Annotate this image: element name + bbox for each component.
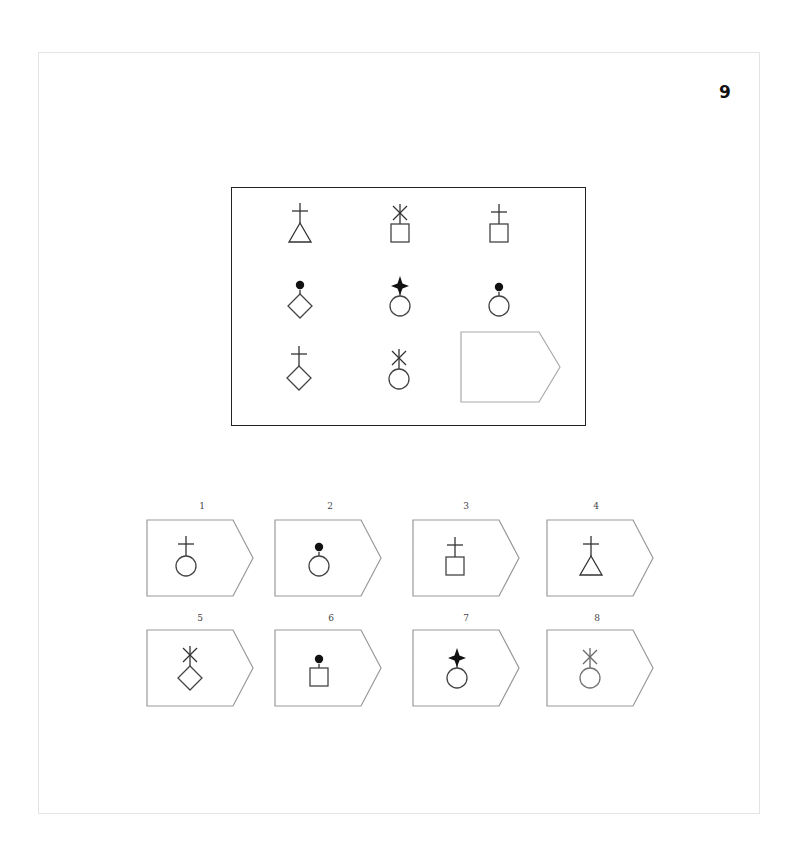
cell-r3c1: [287, 346, 311, 390]
answer-option-4[interactable]: [547, 520, 654, 597]
answer-option-2[interactable]: [275, 520, 382, 597]
cell-r2c1: [288, 281, 312, 318]
answer-option-1[interactable]: [147, 520, 254, 597]
option-6-label: 6: [328, 613, 334, 623]
answer-option-5[interactable]: [147, 630, 254, 707]
answer-option-7[interactable]: [413, 630, 520, 707]
puzzle-drawing: [0, 0, 800, 847]
option-5-label: 5: [197, 613, 203, 623]
option-1-label: 1: [199, 501, 205, 511]
cell-r2c2: [390, 276, 410, 316]
cell-r1c1: [289, 203, 311, 242]
cell-r3c2: [389, 349, 409, 389]
cell-r1c2: [391, 204, 409, 242]
option-2-label: 2: [327, 501, 333, 511]
answer-option-6[interactable]: [275, 630, 382, 707]
empty-answer-slot: [461, 332, 560, 402]
answer-option-3[interactable]: [413, 520, 520, 597]
option-8-label: 8: [594, 613, 600, 623]
option-4-label: 4: [593, 501, 599, 511]
option-7-label: 7: [463, 613, 469, 623]
cell-r2c3: [489, 283, 509, 316]
cell-r1c3: [490, 204, 508, 242]
answer-option-8[interactable]: [547, 630, 654, 707]
option-3-label: 3: [463, 501, 469, 511]
